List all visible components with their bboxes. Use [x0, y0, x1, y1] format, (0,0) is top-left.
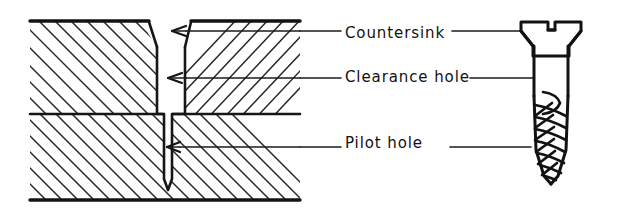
diagram-canvas	[0, 0, 619, 217]
label-clearance-hole: Clearance hole	[345, 70, 470, 85]
screw-head	[521, 22, 581, 56]
countersink-screw-diagram: Countersink Clearance hole Pilot hole	[0, 0, 619, 217]
screw-head-cone-left	[521, 31, 533, 46]
arrow-countersink	[172, 26, 300, 36]
screw-illustration	[521, 22, 581, 184]
screw-head-cone-right	[569, 31, 581, 46]
label-countersink: Countersink	[345, 26, 445, 41]
label-leaders	[300, 31, 534, 147]
arrow-pilot-hole	[167, 142, 300, 152]
label-pilot-hole: Pilot hole	[345, 136, 423, 151]
upper-left-hatching	[0, 18, 248, 124]
